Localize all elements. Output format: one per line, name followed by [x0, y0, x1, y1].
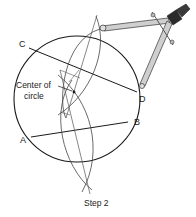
- tick-mark: [60, 112, 70, 115]
- point-label-b: B: [134, 117, 140, 127]
- compass-tip-d: [140, 84, 145, 89]
- tick-mark: [60, 70, 80, 78]
- point-label-c: C: [19, 39, 26, 49]
- construction-diagram: C D B A Center of circle Step 2: [0, 0, 196, 217]
- compass-pivot-top: [100, 25, 106, 31]
- compass: [100, 4, 190, 89]
- bisector-arc-ab-1: [61, 80, 92, 190]
- compass-knob-1: [151, 13, 155, 17]
- annotation-center-line1: Center of: [16, 80, 52, 90]
- point-label-a: A: [20, 135, 26, 145]
- caption: Step 2: [84, 198, 109, 208]
- center-point: [73, 91, 76, 94]
- point-label-d: D: [139, 94, 146, 104]
- annotation-center-line2: circle: [24, 91, 44, 101]
- compass-knob-2: [170, 40, 174, 44]
- chord-ab: [31, 122, 128, 137]
- compass-arm-lower: [140, 21, 172, 86]
